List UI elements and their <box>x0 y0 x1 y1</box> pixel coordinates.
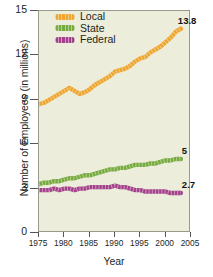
y-tick-label: 3 <box>0 181 27 193</box>
x-tick-mark <box>139 232 140 237</box>
end-label-federal: 2.7 <box>182 179 195 190</box>
y-tick-label: 0 <box>0 225 27 237</box>
figure: Number of Employees (in millions) 036912… <box>0 0 213 277</box>
legend-item-federal[interactable]: Federal <box>55 34 116 46</box>
y-tick-mark <box>30 232 38 233</box>
legend-swatch-icon <box>55 14 75 20</box>
y-tick-mark <box>30 54 38 55</box>
legend-label: Local <box>80 11 105 23</box>
legend-label: Federal <box>80 34 116 46</box>
legend-item-local[interactable]: Local <box>55 11 116 23</box>
y-tick-label: 12 <box>0 47 27 59</box>
y-tick-mark <box>30 10 38 11</box>
series-line-state <box>39 159 181 184</box>
y-tick-mark <box>30 188 38 189</box>
x-tick-mark <box>190 232 191 237</box>
x-tick-mark <box>89 232 90 237</box>
y-tick-label: 9 <box>0 92 27 104</box>
x-tick-mark <box>114 232 115 237</box>
y-tick-label: 6 <box>0 136 27 148</box>
legend: LocalStateFederal <box>55 11 116 46</box>
series-line-federal <box>39 186 181 193</box>
x-tick-mark <box>63 232 64 237</box>
x-tick-mark <box>38 232 39 237</box>
y-tick-mark <box>30 99 38 100</box>
end-label-state: 5 <box>182 145 187 156</box>
x-axis-title: Year <box>38 255 190 267</box>
legend-swatch-icon <box>55 25 75 31</box>
y-tick-mark <box>30 143 38 144</box>
x-tick-mark <box>165 232 166 237</box>
end-label-local: 13.8 <box>178 15 197 26</box>
figure-caption <box>10 270 205 277</box>
y-tick-label: 15 <box>0 3 27 15</box>
legend-swatch-icon <box>55 37 75 43</box>
x-tick-label: 2005 <box>173 238 207 248</box>
